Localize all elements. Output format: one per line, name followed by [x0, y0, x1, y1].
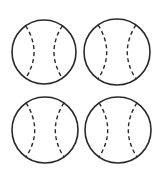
ball-bottom-left: [12, 97, 78, 163]
left-seam: [99, 103, 108, 157]
right-seam: [127, 25, 136, 79]
right-seam: [54, 26, 62, 78]
ball-outline: [85, 97, 151, 163]
ball-bottom-right: [85, 97, 151, 163]
right-seam: [128, 103, 137, 157]
ball-top-right: [84, 19, 150, 85]
right-seam: [55, 103, 64, 157]
left-seam: [26, 26, 34, 78]
ball-outline: [12, 20, 76, 84]
left-seam: [98, 25, 107, 79]
ball-outline: [84, 19, 150, 85]
ball-top-left: [12, 20, 76, 84]
left-seam: [26, 103, 35, 157]
ball-outline: [12, 97, 78, 163]
baseballs-figure: [0, 0, 158, 174]
